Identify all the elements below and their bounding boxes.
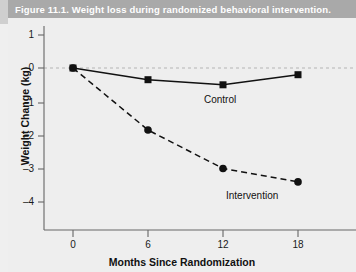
figure-container: Figure 11.1. Weight loss during randomiz… [0,0,356,272]
left-accent-bar [0,0,8,24]
series-point-intervention [294,178,302,186]
series-point-control [145,76,152,83]
series-point-intervention [69,64,77,72]
figure-caption: Figure 11.1. Weight loss during randomiz… [15,4,331,15]
series-label-intervention: Intervention [226,190,278,201]
series-point-intervention [144,126,152,134]
x-tick-label: 18 [285,239,311,250]
x-axis-title: Months Since Randomization [8,256,356,268]
series-point-intervention [219,165,227,173]
y-tick-label: –4 [8,196,34,207]
x-tick-label: 12 [210,239,236,250]
line-chart [8,18,356,272]
plot-area: 1 0 –1 –2 –3 –4 0 6 12 18 Weight Change … [8,18,356,272]
figure-title-bar: Figure 11.1. Weight loss during randomiz… [8,0,356,18]
y-axis-title: Weight Change (kg) [19,51,31,181]
series-point-control [220,81,227,88]
y-tick-label: 1 [8,29,34,40]
series-point-control [295,71,302,78]
plot-panel: 1 0 –1 –2 –3 –4 0 6 12 18 Weight Change … [8,18,356,272]
series-line-intervention [73,68,298,182]
left-margin-strip [0,24,8,272]
x-tick-label: 0 [60,239,86,250]
series-line-control [73,68,298,85]
x-tick-label: 6 [135,239,161,250]
series-label-control: Control [204,94,236,105]
